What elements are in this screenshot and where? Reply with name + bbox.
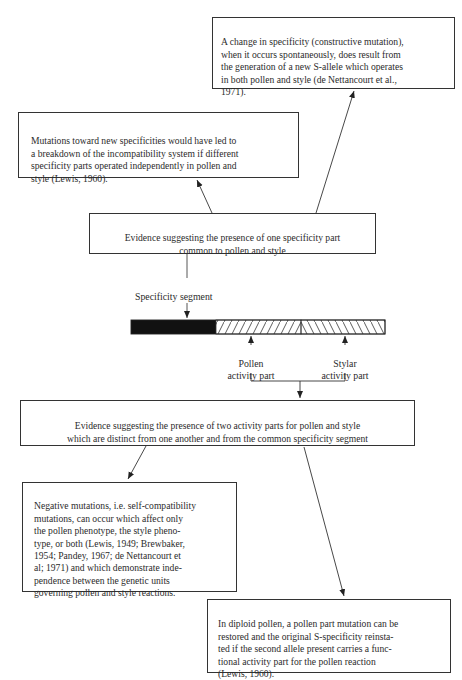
new-specificities-text: Mutations toward new specificities would… bbox=[31, 135, 238, 183]
pollen-activity-label: Pollen activity part bbox=[211, 345, 291, 383]
one-specificity-part-text: Evidence suggesting the presence of one … bbox=[125, 232, 341, 255]
constructive-mutation-box: A change in specificity (constructive mu… bbox=[212, 17, 455, 89]
pollen-activity-segment bbox=[216, 320, 301, 334]
new-specificities-box: Mutations toward new specificities would… bbox=[18, 112, 299, 178]
two-activity-parts-text: Evidence suggesting the presence of two … bbox=[67, 420, 368, 443]
arrow-to-new-specificities bbox=[197, 180, 212, 213]
arrow-to-negative-mutations bbox=[128, 446, 146, 479]
specificity-segment bbox=[131, 320, 216, 334]
stylar-activity-segment bbox=[301, 320, 385, 334]
arrow-to-constructive-mutation bbox=[316, 91, 354, 213]
one-specificity-part-box: Evidence suggesting the presence of one … bbox=[89, 213, 376, 254]
diploid-pollen-box: In diploid pollen, a pollen part mutatio… bbox=[207, 599, 451, 673]
gene-bar bbox=[131, 320, 385, 334]
two-activity-parts-box: Evidence suggesting the presence of two … bbox=[20, 400, 415, 446]
negative-mutations-box: Negative mutations, i.e. self-compatibil… bbox=[22, 482, 237, 592]
specificity-segment-label: Specificity segment bbox=[135, 278, 245, 303]
negative-mutations-text: Negative mutations, i.e. self-compatibil… bbox=[34, 500, 196, 598]
constructive-mutation-text: A change in specificity (constructive mu… bbox=[221, 36, 404, 97]
stylar-activity-label: Stylar activity part bbox=[305, 345, 385, 383]
diploid-pollen-text: In diploid pollen, a pollen part mutatio… bbox=[218, 618, 398, 679]
arrow-to-diploid-pollen bbox=[304, 447, 344, 596]
